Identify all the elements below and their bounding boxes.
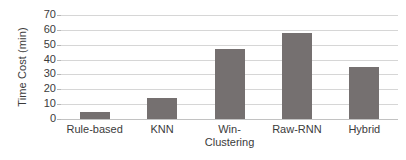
y-axis-title: Time Cost (min): [14, 12, 30, 122]
bar-win--clustering[interactable]: [215, 49, 245, 119]
bar-slot: [61, 15, 128, 119]
bar-series: [61, 15, 398, 119]
bar-slot: [331, 15, 398, 119]
bar-rule-based[interactable]: [80, 112, 110, 119]
x-tick-label-3: Raw-RNN: [263, 121, 330, 159]
bar-slot: [263, 15, 330, 119]
x-tick-label-1: KNN: [128, 121, 195, 159]
x-tick-label-2: Win- Clustering: [196, 121, 263, 159]
y-axis-tick-labels: 706050403020100: [30, 15, 56, 119]
bar-hybrid[interactable]: [349, 67, 379, 119]
y-tick-label-40: 40: [30, 54, 56, 65]
bar-chart: Time Cost (min) 706050403020100 Rule-bas…: [0, 0, 406, 160]
bar-knn[interactable]: [147, 98, 177, 119]
y-tick-label-0: 0: [30, 113, 56, 124]
bar-raw-rnn[interactable]: [282, 33, 312, 119]
y-tick-label-70: 70: [30, 9, 56, 20]
bar-slot: [196, 15, 263, 119]
y-tick-label-20: 20: [30, 83, 56, 94]
x-axis-tick-labels: Rule-basedKNNWin- ClusteringRaw-RNNHybri…: [61, 121, 398, 159]
plot-area: [61, 15, 398, 119]
bar-slot: [128, 15, 195, 119]
x-tick-label-4: Hybrid: [331, 121, 398, 159]
y-tick-label-50: 50: [30, 39, 56, 50]
gridline-0: [61, 119, 398, 120]
x-tick-label-0: Rule-based: [61, 121, 128, 159]
y-tick-label-10: 10: [30, 98, 56, 109]
y-tick-label-30: 30: [30, 68, 56, 79]
y-tick-label-60: 60: [30, 24, 56, 35]
